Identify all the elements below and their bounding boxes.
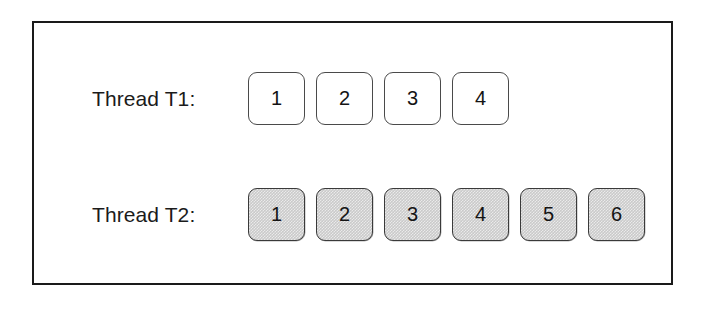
slot-strip-t1: 1 2 3 4 <box>248 72 509 125</box>
slot-t1-4: 4 <box>452 72 509 125</box>
slot-t1-3: 3 <box>384 72 441 125</box>
thread-label-t2: Thread T2: <box>92 204 195 225</box>
thread-row-t2: Thread T2: 1 2 3 4 5 6 <box>34 186 671 242</box>
thread-label-t1: Thread T1: <box>92 88 195 109</box>
slot-t2-3: 3 <box>384 188 441 241</box>
slot-t2-2: 2 <box>316 188 373 241</box>
slot-t1-1: 1 <box>248 72 305 125</box>
diagram-frame: Thread T1: 1 2 3 4 Thread T2: 1 2 3 4 5 … <box>32 21 673 285</box>
slot-t1-2: 2 <box>316 72 373 125</box>
thread-row-t1: Thread T1: 1 2 3 4 <box>34 70 671 126</box>
slot-t2-6: 6 <box>588 188 645 241</box>
slot-t2-5: 5 <box>520 188 577 241</box>
slot-strip-t2: 1 2 3 4 5 6 <box>248 188 645 241</box>
slot-t2-4: 4 <box>452 188 509 241</box>
slot-t2-1: 1 <box>248 188 305 241</box>
